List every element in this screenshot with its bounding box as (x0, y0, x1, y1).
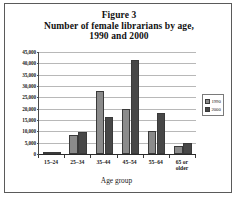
y-axis-label: 35,000 (22, 72, 36, 78)
figure-frame: Figure 3 Number of female librarians by … (4, 3, 232, 193)
y-axis-label: 20,000 (22, 106, 36, 112)
chart-title: Figure 3 Number of female librarians by … (5, 10, 233, 42)
bar-1990-35–44[interactable] (96, 91, 105, 154)
y-axis-label: 15,000 (22, 117, 36, 123)
x-axis-tick (64, 155, 65, 158)
x-axis-tick (38, 155, 39, 158)
bar-group (170, 52, 196, 154)
y-axis-label: 45,000 (22, 49, 36, 55)
x-axis-tick (143, 155, 144, 158)
legend-swatch-icon-2000 (205, 107, 210, 112)
y-axis-label: 5,000 (25, 140, 36, 146)
bar-2000-65-or-older[interactable] (183, 143, 192, 154)
bar-group (118, 52, 144, 154)
bar-1990-15–24[interactable] (43, 152, 52, 154)
bar-group (65, 52, 91, 154)
x-axis-label: 45–54 (117, 159, 143, 165)
y-axis-label: 10,000 (22, 128, 36, 134)
x-axis-label: 65 or older (169, 159, 195, 172)
chart-legend: 1990 2000 (202, 94, 224, 116)
x-axis-label: 15–24 (38, 159, 64, 165)
bar-1990-45–54[interactable] (122, 109, 131, 154)
x-axis-label: 35–44 (90, 159, 116, 165)
bar-2000-55–64[interactable] (157, 113, 166, 154)
x-axis-tick (90, 155, 91, 158)
x-axis-tick (117, 155, 118, 158)
y-axis-label: 40,000 (22, 60, 36, 66)
y-axis-label: 25,000 (22, 94, 36, 100)
bar-1990-55–64[interactable] (148, 131, 157, 154)
plot-area: 05,00010,00015,00020,00025,00030,00035,0… (38, 52, 196, 155)
legend-item-2000[interactable]: 2000 (205, 105, 221, 113)
bar-2000-15–24[interactable] (52, 152, 61, 154)
y-axis-label: 30,000 (22, 83, 36, 89)
bar-2000-25–34[interactable] (78, 132, 87, 154)
bar-group (91, 52, 117, 154)
bar-group (144, 52, 170, 154)
legend-item-1990[interactable]: 1990 (205, 97, 221, 105)
x-axis-tick (195, 155, 196, 158)
x-axis-label: 55–64 (143, 159, 169, 165)
x-axis-label: 25–34 (64, 159, 90, 165)
bar-2000-35–44[interactable] (105, 117, 114, 154)
chart-title-line-1: Figure 3 (5, 10, 233, 21)
chart-title-line-3: 1990 and 2000 (5, 31, 233, 42)
x-axis-tick (169, 155, 170, 158)
bar-1990-25–34[interactable] (69, 135, 78, 154)
x-axis-title: Age group (38, 176, 195, 185)
y-axis-label: 0 (34, 151, 37, 157)
bar-1990-65-or-older[interactable] (174, 146, 183, 154)
bar-2000-45–54[interactable] (131, 60, 140, 154)
legend-label-1990: 1990 (212, 99, 221, 104)
legend-label-2000: 2000 (212, 107, 221, 112)
chart-title-line-2: Number of female librarians by age, (5, 21, 233, 32)
legend-swatch-icon-1990 (205, 99, 210, 104)
bar-group (39, 52, 65, 154)
